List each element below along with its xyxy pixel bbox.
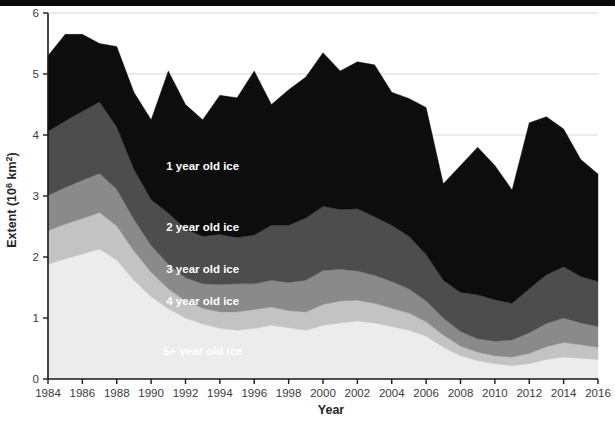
x-tick-label: 1992 <box>173 387 199 399</box>
x-tick-label: 1986 <box>70 387 96 399</box>
y-axis-title-prefix: Extent (10 <box>5 188 19 248</box>
y-tick-label: 1 <box>33 312 39 324</box>
x-tick-label: 2010 <box>482 387 508 399</box>
y-tick-label: 6 <box>33 7 39 19</box>
x-tick-label: 2004 <box>379 387 405 399</box>
x-axis-ticks: 1984198619881990199219941996199820002002… <box>35 379 611 399</box>
x-tick-label: 1998 <box>276 387 302 399</box>
chart-canvas: 0123456 19841986198819901992199419961998… <box>0 0 615 421</box>
x-tick-label: 1994 <box>207 387 233 399</box>
y-axis-title-close: ) <box>5 152 19 156</box>
x-tick-label: 1988 <box>104 387 130 399</box>
x-tick-label: 1984 <box>35 387 61 399</box>
series-label-5-year-old-ice: 5+ year old ice <box>163 345 243 357</box>
x-tick-label: 1990 <box>138 387 164 399</box>
sea-ice-age-stacked-area-chart: 0123456 19841986198819901992199419961998… <box>0 0 615 421</box>
x-tick-label: 2006 <box>413 387 439 399</box>
y-tick-label: 0 <box>33 373 39 385</box>
series-label-2-year-old-ice: 2 year old ice <box>166 221 239 233</box>
svg-text:Extent (106 km2): Extent (106 km2) <box>4 152 19 248</box>
x-tick-label: 2002 <box>345 387 371 399</box>
series-label-4-year-old-ice: 4 year old ice <box>166 295 239 307</box>
y-axis-title-suffix: km <box>5 161 19 183</box>
x-axis-title: Year <box>318 403 345 417</box>
y-tick-label: 5 <box>33 68 39 80</box>
y-tick-label: 4 <box>33 129 40 141</box>
x-tick-label: 2012 <box>516 387 542 399</box>
y-axis-title: Extent (106 km2) <box>4 152 19 248</box>
stacked-areas <box>48 34 598 379</box>
x-tick-label: 1996 <box>241 387 267 399</box>
y-tick-label: 3 <box>33 190 39 202</box>
series-label-1-year-old-ice: 1 year old ice <box>166 160 239 172</box>
x-tick-label: 2016 <box>585 387 611 399</box>
x-tick-label: 2008 <box>448 387 474 399</box>
y-tick-label: 2 <box>33 251 39 263</box>
y-axis-ticks: 0123456 <box>33 7 48 385</box>
x-tick-label: 2000 <box>310 387 336 399</box>
series-label-3-year-old-ice: 3 year old ice <box>166 263 239 275</box>
x-tick-label: 2014 <box>551 387 577 399</box>
